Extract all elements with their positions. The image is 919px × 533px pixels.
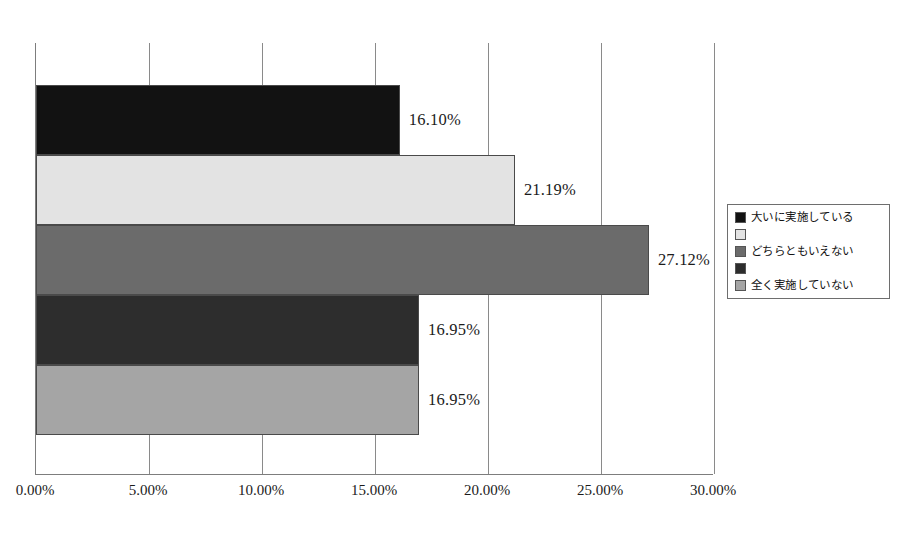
bar-chart: 16.10%21.19%27.12%16.95%16.95% 0.00%5.00… [0,0,919,533]
bar-row: 16.10% [36,85,713,155]
bar-row: 21.19% [36,155,713,225]
bar[interactable] [36,225,649,295]
x-tick-label: 25.00% [577,482,623,499]
x-tick-label: 10.00% [238,482,284,499]
bar-value-label: 16.10% [409,110,461,130]
bar[interactable] [36,155,515,225]
x-tick-label: 30.00% [690,482,736,499]
x-tick-label: 0.00% [16,482,55,499]
legend-swatch-icon [735,280,746,291]
bar-value-label: 16.95% [428,320,480,340]
bar[interactable] [36,85,400,155]
bar-value-label: 16.95% [428,390,480,410]
plot-area: 16.10%21.19%27.12%16.95%16.95% [35,43,713,475]
gridline [714,43,715,474]
bar-row: 27.12% [36,225,713,295]
legend-swatch-icon [735,263,746,274]
x-axis-tick-labels: 0.00%5.00%10.00%15.00%20.00%25.00%30.00% [35,482,713,508]
legend-swatch-icon [735,212,746,223]
chart-legend: 大いに実施しているどちらともいえない全く実施していない [727,204,890,299]
bar-value-label: 21.19% [524,180,576,200]
x-tick-label: 15.00% [351,482,397,499]
bar[interactable] [36,295,419,365]
legend-item[interactable] [735,261,883,276]
legend-item[interactable] [735,227,883,242]
legend-item[interactable]: 全く実施していない [735,278,883,293]
legend-item[interactable]: どちらともいえない [735,244,883,259]
x-tick-label: 20.00% [464,482,510,499]
bar-row: 16.95% [36,295,713,365]
legend-item-label: 大いに実施している [751,211,854,224]
bar-value-label: 27.12% [658,250,710,270]
bar[interactable] [36,365,419,435]
legend-swatch-icon [735,246,746,257]
legend-item[interactable]: 大いに実施している [735,210,883,225]
bar-row: 16.95% [36,365,713,435]
x-tick-label: 5.00% [129,482,168,499]
legend-item-label: 全く実施していない [751,279,854,292]
legend-swatch-icon [735,229,746,240]
legend-item-label: どちらともいえない [751,245,854,258]
